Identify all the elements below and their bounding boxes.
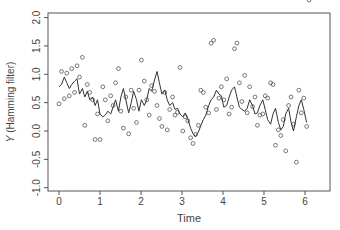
- plot-frame: [48, 13, 330, 191]
- data-point: [137, 88, 141, 92]
- data-point: [238, 81, 242, 85]
- data-point: [299, 111, 303, 115]
- data-point: [294, 160, 298, 164]
- data-point: [65, 71, 69, 75]
- data-point: [266, 96, 270, 100]
- data-point: [93, 138, 97, 142]
- y-tick-label: -0.5: [31, 150, 42, 168]
- y-tick-label: 1.0: [31, 67, 42, 81]
- data-point: [305, 125, 309, 129]
- y-tick-label: 0.0: [31, 124, 42, 138]
- y-tick-label: -1.0: [31, 179, 42, 197]
- data-point: [256, 123, 260, 127]
- x-tick-label: 2: [138, 196, 144, 207]
- data-point: [147, 113, 151, 117]
- x-tick-label: 1: [97, 196, 103, 207]
- x-tick-label: 5: [261, 196, 267, 207]
- data-point: [307, 0, 311, 2]
- y-axis-label-text: (Hamming filter): [5, 62, 16, 136]
- x-tick-label: 4: [220, 196, 226, 207]
- data-point: [155, 104, 159, 108]
- x-axis-label: Time: [177, 212, 201, 224]
- data-point: [83, 123, 87, 127]
- data-point: [189, 136, 193, 140]
- y-axis-label: Y (Hamming filter): [5, 62, 16, 143]
- x-tick-label: 6: [302, 196, 308, 207]
- data-point: [60, 70, 64, 74]
- data-point: [67, 94, 71, 98]
- data-point: [199, 88, 203, 92]
- data-point: [276, 128, 280, 132]
- data-point: [219, 85, 223, 89]
- data-point: [168, 108, 172, 112]
- data-point: [279, 134, 283, 138]
- data-point: [75, 64, 79, 68]
- data-point: [212, 38, 216, 42]
- chart-canvas: -1.0-0.50.00.51.01.52.0 0123456 Time Y (…: [0, 0, 340, 230]
- data-point: [297, 88, 301, 92]
- data-point: [287, 104, 291, 108]
- data-point: [85, 83, 89, 87]
- data-point: [158, 117, 162, 121]
- data-point: [171, 95, 175, 99]
- data-point: [132, 106, 136, 110]
- data-point: [215, 108, 219, 112]
- data-point: [248, 85, 252, 89]
- data-point: [80, 55, 84, 59]
- data-point: [243, 74, 247, 78]
- y-tick-label: 2.0: [31, 10, 42, 24]
- data-point: [62, 97, 66, 101]
- data-point: [263, 94, 267, 98]
- data-point: [57, 102, 61, 106]
- data-point: [284, 149, 288, 153]
- data-point: [240, 100, 244, 104]
- data-point: [274, 143, 278, 147]
- y-tick-label: 0.5: [31, 95, 42, 109]
- data-point: [103, 98, 107, 102]
- data-point: [106, 119, 110, 123]
- data-point: [140, 58, 144, 62]
- data-point: [302, 96, 306, 100]
- data-point: [101, 85, 105, 89]
- data-point: [253, 95, 257, 99]
- data-point: [70, 67, 74, 71]
- data-points: [57, 0, 311, 164]
- data-point: [217, 96, 221, 100]
- data-point: [201, 91, 205, 95]
- data-point: [142, 79, 146, 83]
- data-point: [230, 105, 234, 109]
- data-point: [289, 95, 293, 99]
- data-point: [114, 81, 118, 85]
- data-point: [109, 94, 113, 98]
- data-point: [178, 66, 182, 70]
- data-point: [135, 121, 139, 125]
- data-point: [98, 138, 102, 142]
- data-point: [204, 105, 208, 109]
- data-point: [153, 89, 157, 93]
- data-point: [181, 129, 185, 133]
- data-point: [165, 128, 169, 132]
- data-point: [225, 77, 229, 81]
- y-tick-label: 1.5: [31, 39, 42, 53]
- data-point: [73, 91, 77, 95]
- data-point: [245, 111, 249, 115]
- data-point: [121, 126, 125, 130]
- data-point: [127, 132, 131, 136]
- data-point: [191, 142, 195, 146]
- data-point: [160, 125, 164, 129]
- data-point: [227, 112, 231, 116]
- x-tick-label: 3: [179, 196, 185, 207]
- y-axis: -1.0-0.50.00.51.01.52.0: [31, 10, 48, 196]
- data-point: [233, 47, 237, 51]
- data-point: [197, 123, 201, 127]
- data-point: [96, 112, 100, 116]
- data-point: [235, 41, 239, 45]
- data-point: [117, 67, 121, 71]
- x-axis: 0123456: [56, 191, 308, 207]
- data-point: [78, 75, 82, 79]
- data-point: [119, 109, 123, 113]
- data-point: [129, 88, 133, 92]
- x-tick-label: 0: [56, 196, 62, 207]
